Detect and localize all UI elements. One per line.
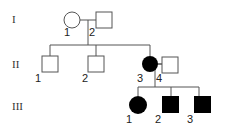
number-III-3: 3 <box>187 113 193 125</box>
individual-III-3 <box>194 96 211 113</box>
number-I-1: 1 <box>64 26 70 38</box>
number-II-2: 2 <box>82 72 88 84</box>
generation-label-II: II <box>12 58 20 70</box>
individual-II-4 <box>162 57 178 73</box>
number-III-1: 1 <box>126 113 132 125</box>
number-I-2: 2 <box>89 26 95 38</box>
individual-II-2 <box>88 56 104 72</box>
individual-I-2 <box>96 12 112 28</box>
number-II-3: 3 <box>137 72 143 84</box>
individual-III-2 <box>162 96 179 113</box>
individual-II-1 <box>42 56 58 72</box>
number-II-1: 1 <box>35 72 41 84</box>
generation-label-III: III <box>12 100 23 112</box>
number-II-4: 4 <box>156 72 162 84</box>
pedigree-chart: I II III 1 2 1 2 3 4 1 2 3 <box>0 0 225 131</box>
individual-III-1 <box>129 96 147 114</box>
generation-label-I: I <box>12 13 16 25</box>
number-III-2: 2 <box>155 113 161 125</box>
individual-II-3 <box>142 56 158 72</box>
